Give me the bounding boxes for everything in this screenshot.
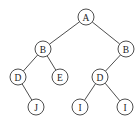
tree-node-j: J	[28, 99, 44, 115]
tree-node-i: I	[72, 99, 88, 115]
node-label: A	[83, 13, 90, 23]
tree-node-d: D	[92, 69, 108, 85]
tree-edge-a-b	[49, 22, 79, 44]
node-label: I	[123, 103, 126, 113]
node-label: D	[97, 73, 104, 83]
tree-node-i: I	[117, 99, 133, 115]
node-label: J	[34, 103, 38, 113]
tree-node-a: A	[78, 9, 94, 25]
node-label: E	[57, 73, 63, 83]
tree-edge-d-i	[105, 83, 120, 101]
node-label: B	[123, 45, 129, 55]
tree-edge-b-d	[23, 55, 37, 71]
tree-node-b: B	[118, 41, 134, 57]
tree-edge-b-e	[47, 56, 56, 70]
tree-edges	[22, 22, 120, 101]
tree-node-d: D	[10, 69, 26, 85]
tree-nodes: ABBDEDJII	[10, 9, 134, 115]
node-label: B	[40, 45, 46, 55]
tree-edge-a-b	[92, 22, 120, 44]
tree-node-e: E	[52, 69, 68, 85]
tree-edge-b-d	[105, 55, 120, 71]
binary-tree-diagram: ABBDEDJII	[0, 0, 138, 123]
node-label: D	[15, 73, 22, 83]
tree-edge-d-j	[22, 84, 32, 100]
tree-edge-d-i	[84, 84, 95, 101]
tree-node-b: B	[35, 41, 51, 57]
node-label: I	[78, 103, 81, 113]
